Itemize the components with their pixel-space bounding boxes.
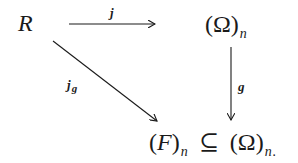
paren-open: ( — [149, 129, 157, 155]
node-R-symbol: R — [18, 10, 33, 36]
omega-symbol: Ω — [213, 11, 231, 37]
subscript-n: n — [265, 144, 272, 159]
node-bottom: (F)n ⊆ (Ω)n. — [149, 130, 276, 154]
period: . — [273, 144, 277, 159]
label-jg: jg — [67, 78, 77, 91]
label-j-text: j — [110, 5, 114, 20]
label-j: j — [110, 6, 114, 19]
paren-open: ( — [205, 11, 213, 37]
subseteq-symbol: ⊆ — [199, 129, 219, 155]
node-omega-n: (Ω)n — [205, 12, 247, 36]
omega-symbol: Ω — [238, 129, 256, 155]
paren-close: ) — [256, 129, 264, 155]
paren-close: ) — [231, 11, 239, 37]
paren-open: ( — [230, 129, 238, 155]
label-g: g — [238, 80, 245, 93]
label-g-text: g — [238, 79, 245, 94]
subscript-n: n — [240, 26, 247, 41]
node-R: R — [18, 11, 33, 35]
F-symbol: F — [157, 129, 172, 155]
subscript-n: n — [181, 144, 188, 159]
paren-close: ) — [172, 129, 180, 155]
label-jg-text: j — [67, 77, 71, 92]
label-jg-subscript: g — [72, 82, 78, 94]
